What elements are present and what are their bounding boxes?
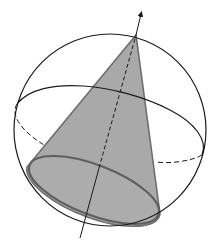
cone-in-sphere-diagram: [0, 0, 215, 250]
equator-back-right: [156, 155, 202, 163]
axis-arrow: [136, 14, 141, 35]
